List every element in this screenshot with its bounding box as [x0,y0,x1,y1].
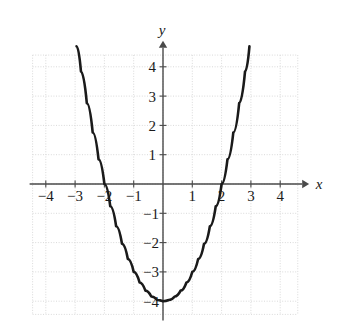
x-tick-label: −1 [126,188,142,204]
coordinate-plane-svg: −4−3−2−112344321−1−2−3−4 xy [0,0,337,327]
x-tick-label: −4 [38,188,54,204]
y-tick-label: 2 [149,118,157,134]
parabola-graph-figure: −4−3−2−112344321−1−2−3−4 xy [0,0,337,327]
x-axis-label: x [315,176,323,192]
x-tick-label: 1 [189,188,197,204]
y-tick-label: −3 [143,264,159,280]
x-tick-label: 4 [276,188,284,204]
y-tick-label: −1 [143,206,159,222]
y-tick-label: −2 [143,235,159,251]
y-axis-label: y [157,22,166,38]
y-tick-label: 4 [149,59,157,75]
figure-background [0,0,337,327]
y-tick-label: 1 [149,147,157,163]
x-tick-label: 3 [247,188,255,204]
y-tick-label: 3 [149,89,157,105]
x-tick-label: −3 [67,188,83,204]
